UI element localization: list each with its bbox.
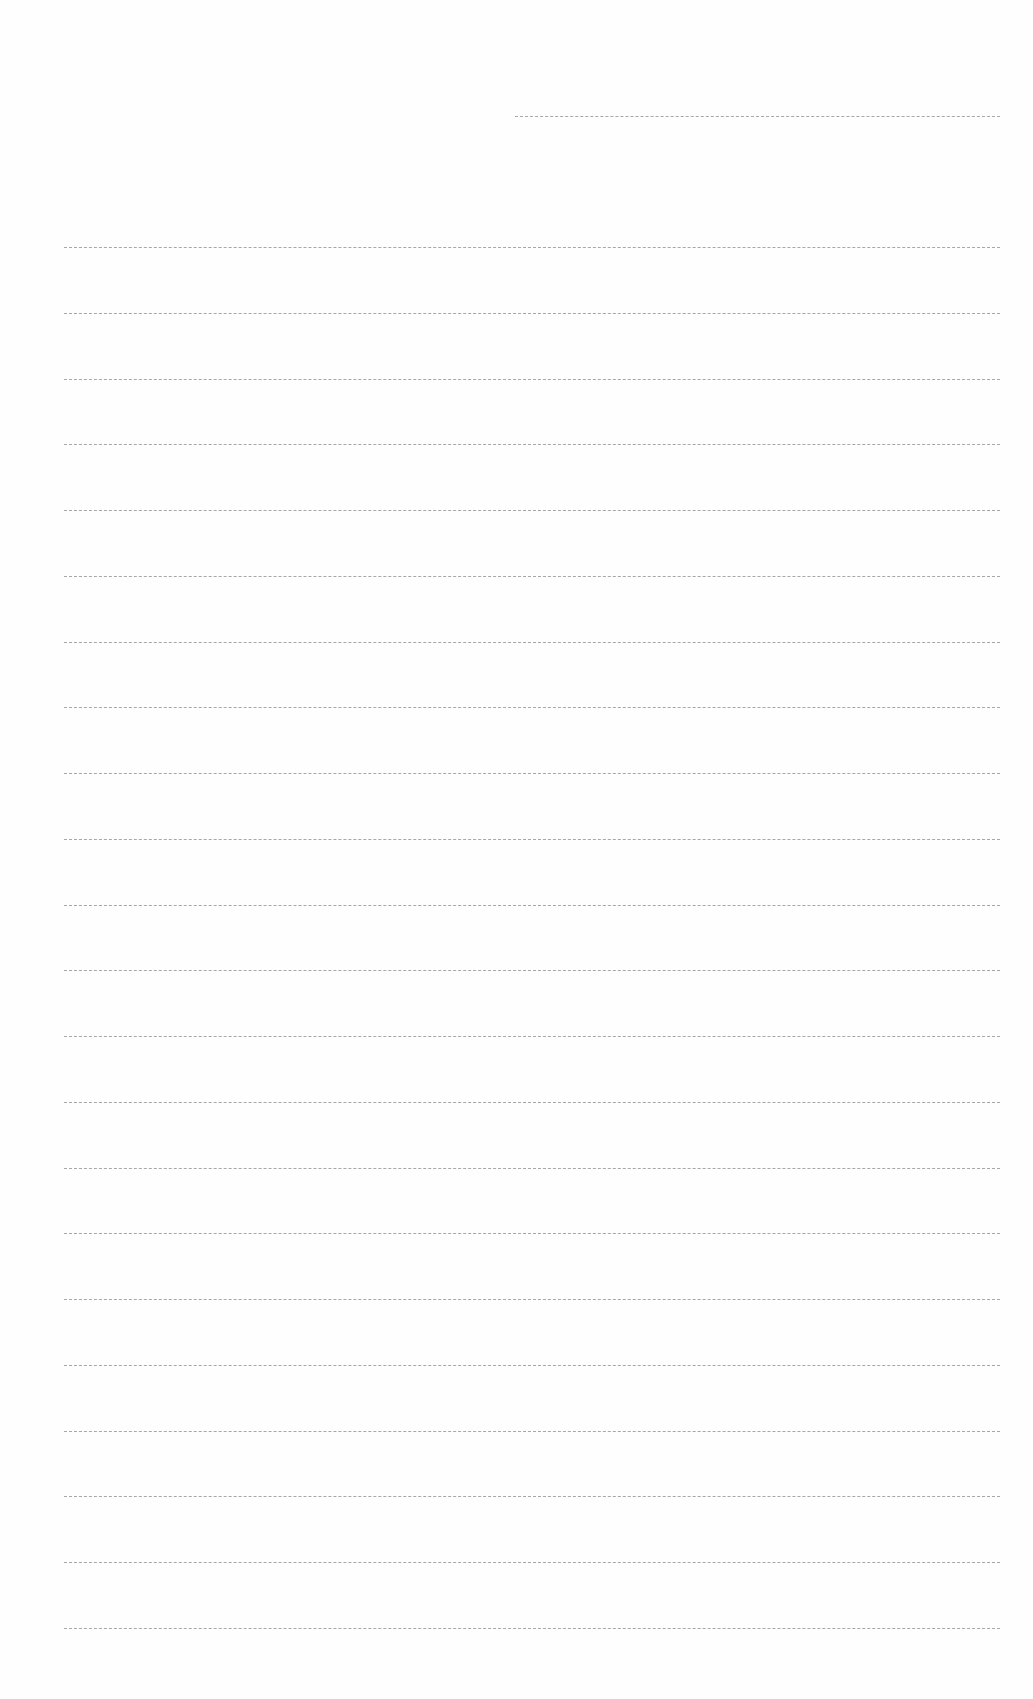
ruled-line	[64, 1168, 1000, 1170]
header-rule-line	[515, 116, 1000, 118]
ruled-line	[64, 1431, 1000, 1433]
ruled-line	[64, 1562, 1000, 1564]
ruled-line	[64, 1233, 1000, 1235]
ruled-line	[64, 510, 1000, 512]
ruled-line	[64, 1496, 1000, 1498]
ruled-page	[0, 0, 1033, 1699]
ruled-line	[64, 1365, 1000, 1367]
ruled-line	[64, 1102, 1000, 1104]
ruled-line	[64, 642, 1000, 644]
ruled-line	[64, 576, 1000, 578]
ruled-line	[64, 1036, 1000, 1038]
ruled-line	[64, 839, 1000, 841]
ruled-line	[64, 444, 1000, 446]
ruled-line	[64, 247, 1000, 249]
ruled-line	[64, 1299, 1000, 1301]
ruled-line	[64, 773, 1000, 775]
ruled-line	[64, 379, 1000, 381]
ruled-line	[64, 1628, 1000, 1630]
ruled-line	[64, 313, 1000, 315]
ruled-line	[64, 970, 1000, 972]
ruled-line	[64, 707, 1000, 709]
ruled-line	[64, 905, 1000, 907]
